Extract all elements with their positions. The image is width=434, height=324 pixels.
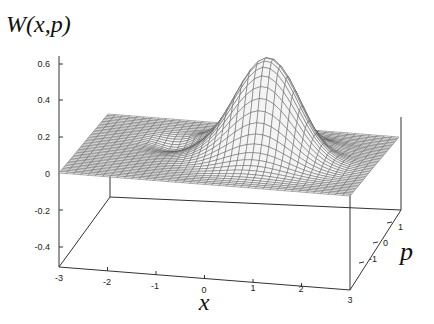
- svg-text:-1: -1: [369, 254, 377, 264]
- svg-text:0.2: 0.2: [37, 132, 50, 142]
- svg-text:0.6: 0.6: [37, 59, 50, 69]
- svg-text:-3: -3: [55, 273, 63, 283]
- svg-text:0.4: 0.4: [37, 95, 50, 105]
- wigner-surface-plot: W(x,p) 0.6 0.4 0.2 0 -0.2 -0.4 -3 -2 -1: [0, 0, 434, 324]
- svg-text:-2: -2: [103, 277, 111, 287]
- wigner-surface-mesh: [59, 58, 399, 196]
- svg-text:-0.2: -0.2: [34, 206, 50, 216]
- svg-text:1: 1: [250, 283, 255, 293]
- z-axis-title: W(x,p): [6, 11, 71, 37]
- z-tick-labels: 0.6 0.4 0.2 0 -0.2 -0.4: [34, 59, 50, 252]
- svg-text:-1: -1: [151, 281, 159, 291]
- x-axis-title: x: [198, 289, 210, 315]
- z-axis-ticks: [59, 64, 63, 247]
- svg-text:0: 0: [45, 169, 50, 179]
- svg-text:3: 3: [347, 295, 352, 305]
- svg-text:2: 2: [298, 284, 303, 294]
- svg-text:0: 0: [383, 238, 388, 248]
- svg-text:1: 1: [398, 222, 403, 232]
- svg-text:-0.4: -0.4: [34, 242, 50, 252]
- p-axis-title: p: [398, 237, 413, 266]
